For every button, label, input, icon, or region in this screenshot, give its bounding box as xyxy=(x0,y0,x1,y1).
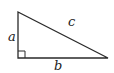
side-label-c: c xyxy=(68,14,76,29)
right-angle-marker xyxy=(18,51,25,58)
triangle xyxy=(18,12,108,58)
side-label-a: a xyxy=(8,29,16,44)
side-label-b: b xyxy=(54,58,62,73)
right-triangle-diagram: a b c xyxy=(0,0,114,73)
